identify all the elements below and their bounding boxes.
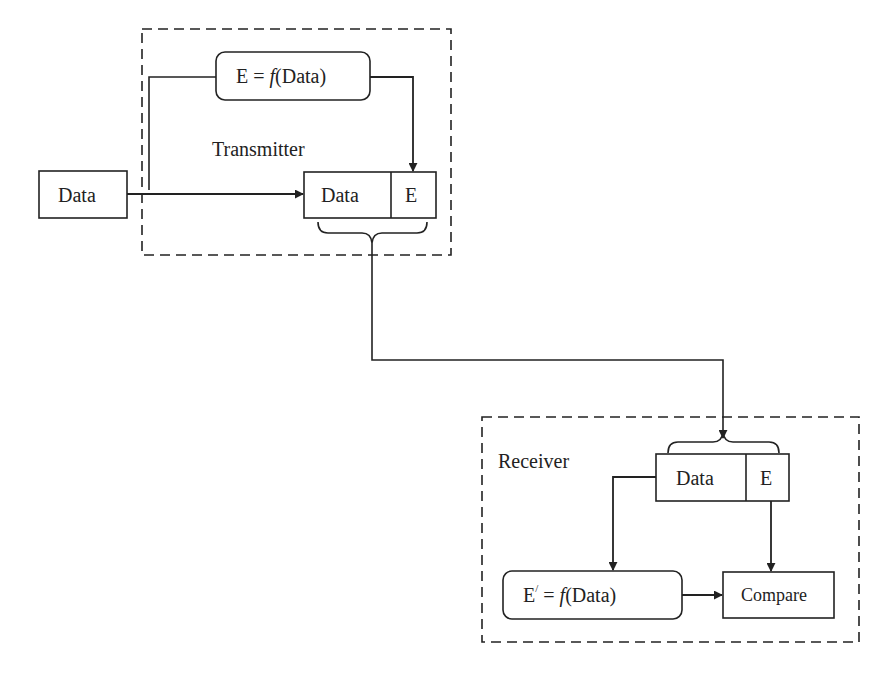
data-to-recompute-arrow (613, 477, 656, 570)
transmitter-packet-data: Data (321, 184, 359, 206)
svg-text:E/ = f(Data): E/ = f(Data) (523, 582, 616, 607)
receiver-label: Receiver (498, 450, 569, 472)
compare-label: Compare (741, 585, 807, 605)
error-detection-diagram: Transmitter E = f(Data) Data E Data R (0, 0, 893, 677)
data-to-function-line (149, 77, 216, 190)
receiver-function-box: E/ = f(Data) (503, 571, 682, 619)
source-data-label: Data (58, 184, 96, 206)
channel-line (372, 243, 723, 438)
receiver-packet: Data E (656, 454, 789, 501)
receiver-group: Receiver Data E E/ = f(Data) Compare (482, 417, 859, 642)
transmitter-brace (318, 222, 427, 243)
receiver-packet-check: E (760, 467, 772, 489)
recomputed-eq: = (538, 584, 559, 606)
transmitter-group: Transmitter E = f(Data) Data E (142, 29, 451, 255)
function-to-check-arrow (370, 77, 413, 171)
compare-box: Compare (723, 572, 834, 618)
function-prefix: E = (236, 65, 270, 87)
recomputed-prefix: E (523, 584, 535, 606)
source-data-box: Data (39, 171, 127, 218)
transmitter-packet: Data E (304, 172, 436, 218)
transmitter-label: Transmitter (212, 138, 305, 160)
function-arg: (Data) (275, 65, 326, 88)
recomputed-arg: (Data) (565, 584, 616, 607)
svg-text:E = f(Data): E = f(Data) (236, 65, 326, 88)
receiver-brace (668, 432, 779, 453)
receiver-packet-data: Data (676, 467, 714, 489)
transmitter-packet-check: E (405, 184, 417, 206)
transmitter-function-box: E = f(Data) (216, 52, 370, 100)
